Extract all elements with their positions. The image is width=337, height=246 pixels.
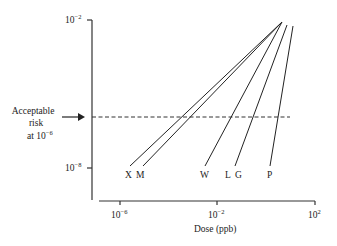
series-line-p	[270, 26, 293, 166]
annotation-line-3: at 10−6	[27, 129, 53, 141]
x-axis-label: Dose (ppb)	[194, 224, 236, 235]
annotation-line-2: risk	[29, 118, 44, 128]
annotation-line-1: Acceptable	[12, 106, 55, 116]
series-label-m: M	[136, 170, 145, 180]
series-label-w: W	[200, 170, 209, 180]
series-label-l: L	[225, 170, 231, 180]
dose-response-chart: 10−2 10−8 10−6 10−2 102 Dose (ppb) Accep…	[0, 0, 337, 246]
y-tick-label-bottom: 10−8	[65, 161, 81, 173]
x-tick-label-1: 10−6	[111, 208, 128, 220]
series-label-x: X	[125, 170, 132, 180]
series-line-w	[205, 22, 282, 166]
series-label-g: G	[235, 170, 242, 180]
y-tick-label-top: 10−2	[65, 13, 81, 25]
x-tick-label-3: 102	[308, 208, 321, 220]
series-label-p: P	[267, 170, 272, 180]
arrow-head-icon	[78, 113, 85, 121]
x-tick-label-2: 10−2	[208, 208, 224, 220]
series-line-x	[130, 22, 282, 166]
